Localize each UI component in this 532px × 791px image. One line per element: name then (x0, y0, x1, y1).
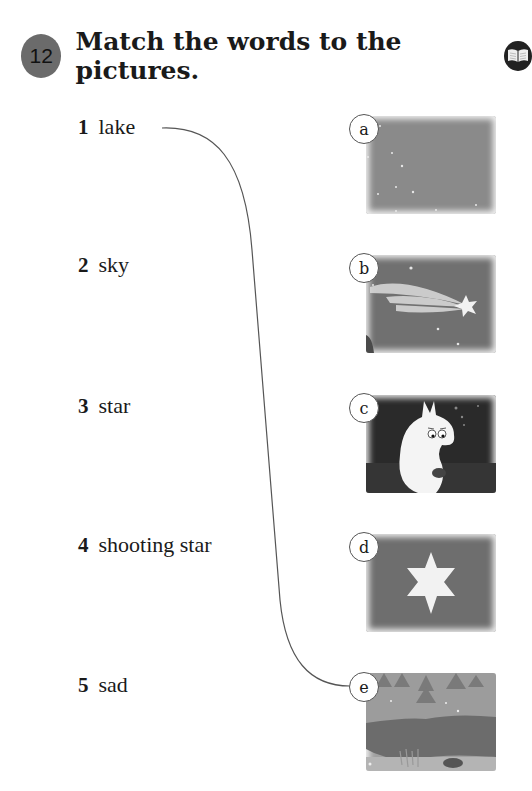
picture-label-d: d (349, 532, 379, 562)
match-line (0, 0, 532, 791)
picture-label-e: e (349, 672, 379, 702)
picture-label-a: a (349, 114, 379, 144)
picture-label-b: b (349, 253, 379, 283)
picture-label-c: c (349, 393, 379, 423)
